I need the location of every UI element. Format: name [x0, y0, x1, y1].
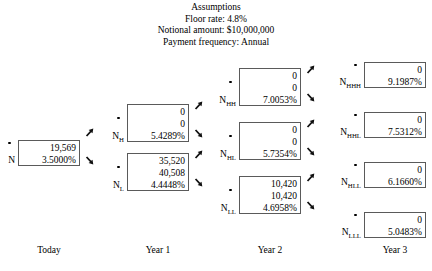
node-NL: NL 35,520 40,508 4.4448% — [127, 153, 189, 191]
node-rate-row: 6.1660% — [365, 176, 422, 188]
node-NH: NH 0 0 5.4289% — [127, 104, 189, 142]
node-value-row: 0 — [365, 164, 422, 176]
node-rate-row: 5.7354% — [240, 148, 297, 160]
node-value-row: 0 — [240, 82, 297, 94]
node-NHH: NHH 0 0 7.0053% — [239, 68, 301, 106]
node-rate-row: 4.4448% — [128, 179, 185, 191]
node-rate-row: 7.5312% — [365, 126, 422, 138]
node-NHL: NHL 0 0 5.7354% — [239, 122, 301, 160]
node-bullet-icon — [229, 135, 232, 138]
column-caption-year-2: Year 2 — [239, 244, 301, 256]
node-value-row: 0 — [240, 124, 297, 136]
column-caption-year-3: Year 3 — [364, 244, 426, 256]
assumption-floor-rate: Floor rate: 4.8% — [0, 14, 432, 26]
node-value-row: 0 — [365, 114, 422, 126]
rate-lattice-diagram: Exhibit: Valuation of an interest rate f… — [0, 0, 432, 271]
node-value-row: 0 — [365, 64, 422, 76]
node-label-NHLL: NHLL — [341, 176, 361, 188]
branch-up-arrow-icon — [306, 65, 315, 74]
node-value-row: 40,508 — [128, 167, 185, 179]
node-bullet-icon — [229, 189, 232, 192]
node-value-row: 0 — [128, 106, 185, 118]
branch-up-arrow-icon — [194, 150, 203, 159]
branch-up-arrow-icon — [194, 101, 203, 110]
node-bullet-icon — [117, 117, 120, 120]
node-box-NHL: 0 0 5.7354% — [239, 122, 301, 160]
branch-down-arrow-icon — [194, 178, 203, 187]
node-bullet-icon — [354, 114, 357, 117]
node-NLLL: NLLL 0 5.0483% — [364, 212, 426, 238]
node-NHHL: NHHL 0 7.5312% — [364, 112, 426, 138]
node-N: N 19,569 3.5000% — [18, 140, 80, 166]
node-box-NLLL: 0 5.0483% — [364, 212, 426, 238]
node-value-row: 0 — [240, 70, 297, 82]
node-rate-row: 5.0483% — [365, 226, 422, 238]
assumption-notional-amount: Notional amount: $10,000,000 — [0, 25, 432, 37]
node-NLL: NLL 10,420 10,420 4.6958% — [239, 176, 301, 214]
node-value-row: 0 — [240, 136, 297, 148]
node-value-row: 35,520 — [128, 155, 185, 167]
node-box-NH: 0 0 5.4289% — [127, 104, 189, 142]
branch-up-arrow-icon — [306, 173, 315, 182]
node-bullet-icon — [354, 64, 357, 67]
node-box-NL: 35,520 40,508 4.4448% — [127, 153, 189, 191]
assumptions-title: Assumptions — [0, 2, 432, 14]
branch-up-arrow-icon — [85, 128, 94, 137]
node-label-NLLL: NLLL — [342, 226, 361, 238]
node-value-row: 0 — [365, 214, 422, 226]
node-value-row: 0 — [128, 118, 185, 130]
node-label-NL: NL — [113, 179, 124, 191]
node-rate-row: 5.4289% — [128, 130, 185, 142]
node-label-NHHH: NHHH — [339, 76, 361, 88]
node-bullet-icon — [354, 214, 357, 217]
column-caption-year-1: Year 1 — [127, 244, 189, 256]
column-caption-today: Today — [18, 244, 80, 256]
node-bullet-icon — [354, 164, 357, 167]
node-NHHH: NHHH 0 9.1987% — [364, 62, 426, 88]
node-bullet-icon — [117, 166, 120, 169]
node-NHLL: NHLL 0 6.1660% — [364, 162, 426, 188]
node-box-NHLL: 0 6.1660% — [364, 162, 426, 188]
branch-down-arrow-icon — [306, 93, 315, 102]
node-rate-row: 3.5000% — [19, 154, 76, 166]
node-rate-row: 9.1987% — [365, 76, 422, 88]
node-bullet-icon — [229, 81, 232, 84]
branch-down-arrow-icon — [194, 129, 203, 138]
branch-down-arrow-icon — [306, 201, 315, 210]
branch-up-arrow-icon — [306, 119, 315, 128]
node-box-NHHH: 0 9.1987% — [364, 62, 426, 88]
branch-down-arrow-icon — [85, 156, 94, 165]
node-label-NHL: NHL — [220, 148, 236, 160]
node-rate-row: 4.6958% — [240, 202, 297, 214]
node-box-N: 19,569 3.5000% — [18, 140, 80, 166]
node-label-NHH: NHH — [219, 94, 236, 106]
node-rate-row: 7.0053% — [240, 94, 297, 106]
node-value-row: 19,569 — [19, 142, 76, 154]
node-value-row: 10,420 — [240, 178, 297, 190]
node-label-NH: NH — [112, 130, 124, 142]
node-box-NLL: 10,420 10,420 4.6958% — [239, 176, 301, 214]
assumptions-block: Assumptions Floor rate: 4.8% Notional am… — [0, 2, 432, 48]
node-label-N: N — [8, 154, 15, 166]
node-label-NHHL: NHHL — [340, 126, 361, 138]
node-box-NHH: 0 0 7.0053% — [239, 68, 301, 106]
node-box-NHHL: 0 7.5312% — [364, 112, 426, 138]
node-bullet-icon — [8, 142, 11, 145]
assumption-payment-frequency: Payment frequency: Annual — [0, 37, 432, 49]
node-label-NLL: NLL — [221, 202, 236, 214]
branch-down-arrow-icon — [306, 147, 315, 156]
node-value-row: 10,420 — [240, 190, 297, 202]
